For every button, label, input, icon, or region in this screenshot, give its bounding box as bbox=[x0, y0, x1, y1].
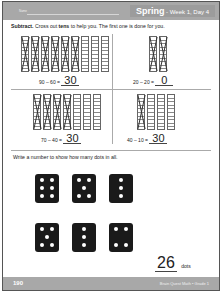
instruction-keyword: tens bbox=[59, 23, 70, 29]
name-input-line[interactable] bbox=[27, 14, 119, 15]
instruction-text-end: to help you. The first one is done for y… bbox=[69, 23, 164, 29]
ten-rod-crossed[interactable] bbox=[71, 36, 79, 72]
ten-rod-crossed[interactable] bbox=[43, 94, 51, 130]
domino-6 bbox=[35, 174, 59, 203]
ten-rod[interactable] bbox=[147, 94, 155, 130]
ten-rod[interactable] bbox=[93, 94, 101, 130]
total-answer-field[interactable]: 26 bbox=[155, 254, 177, 272]
ten-rod[interactable] bbox=[101, 36, 109, 72]
ten-rod[interactable] bbox=[167, 94, 175, 130]
ten-rod-crossed[interactable] bbox=[159, 36, 167, 72]
ten-rod[interactable] bbox=[91, 36, 99, 72]
ten-rod[interactable] bbox=[73, 94, 81, 130]
subtract-instruction: Subtract. Cross out tens to help you. Th… bbox=[11, 23, 165, 29]
dots-total: 26 dots bbox=[155, 254, 191, 272]
page-header: Name Spring - Week 1, Day 4 bbox=[3, 2, 219, 20]
domino-3 bbox=[109, 174, 133, 203]
equation-text: 40 – 10 = bbox=[127, 137, 148, 143]
problem-1: 90 – 60 = 30 bbox=[9, 32, 111, 89]
ten-rod[interactable] bbox=[81, 36, 89, 72]
ten-rods[interactable] bbox=[21, 36, 109, 72]
ten-rod-crossed[interactable] bbox=[61, 36, 69, 72]
ten-rod-crossed[interactable] bbox=[21, 36, 29, 72]
total-unit: dots bbox=[181, 263, 190, 269]
ten-rods[interactable] bbox=[149, 36, 167, 72]
book-title: Brain Quest Math • Grade 1 bbox=[160, 281, 209, 286]
equation: 90 – 60 = 30 bbox=[39, 75, 79, 86]
lesson-title: Spring - Week 1, Day 4 bbox=[130, 5, 215, 17]
page-footer: 190 Brain Quest Math • Grade 1 bbox=[3, 277, 219, 290]
problem-2: 20 – 20 = 0 bbox=[113, 32, 215, 89]
equation: 40 – 10 = 30 bbox=[127, 133, 167, 144]
domino-5 bbox=[35, 223, 59, 252]
page-number: 190 bbox=[13, 280, 23, 286]
equation-text: 20 – 20 = bbox=[133, 79, 154, 85]
answer-field[interactable]: 0 bbox=[155, 75, 173, 86]
equation-text: 90 – 60 = bbox=[39, 79, 60, 85]
domino-5 bbox=[72, 174, 96, 203]
subtraction-grid: 90 – 60 = 30 20 – 20 = 0 70 – 40 = 30 bbox=[9, 32, 213, 148]
equation: 20 – 20 = 0 bbox=[133, 75, 173, 86]
equation: 70 – 40 = 30 bbox=[41, 133, 81, 144]
ten-rods[interactable] bbox=[33, 94, 101, 130]
name-label: Name bbox=[19, 9, 27, 13]
answer-field[interactable]: 30 bbox=[63, 133, 81, 144]
ten-rod-crossed[interactable] bbox=[31, 36, 39, 72]
ten-rod-crossed[interactable] bbox=[137, 94, 145, 130]
ten-rod-crossed[interactable] bbox=[63, 94, 71, 130]
ten-rod-crossed[interactable] bbox=[41, 36, 49, 72]
ten-rods[interactable] bbox=[137, 94, 175, 130]
problem-3: 70 – 40 = 30 bbox=[9, 90, 111, 147]
ten-rod-crossed[interactable] bbox=[149, 36, 157, 72]
week-day-label: - Week 1, Day 4 bbox=[164, 9, 209, 15]
domino-4 bbox=[109, 223, 133, 252]
season-title: Spring bbox=[136, 6, 165, 16]
ten-rod[interactable] bbox=[83, 94, 91, 130]
ten-rod-crossed[interactable] bbox=[33, 94, 41, 130]
instruction-heading: Subtract. bbox=[11, 23, 33, 29]
problem-4: 40 – 10 = 30 bbox=[113, 90, 215, 147]
ten-rod-crossed[interactable] bbox=[51, 36, 59, 72]
answer-field[interactable]: 30 bbox=[61, 75, 79, 86]
dots-instruction: Write a number to show how many dots in … bbox=[13, 154, 118, 160]
answer-field[interactable]: 30 bbox=[149, 133, 167, 144]
instruction-text: Cross out bbox=[33, 23, 58, 29]
ten-rod[interactable] bbox=[157, 94, 165, 130]
section-divider bbox=[11, 150, 211, 151]
domino-3 bbox=[72, 223, 96, 252]
worksheet-page: Name Spring - Week 1, Day 4 Subtract. Cr… bbox=[2, 1, 220, 291]
ten-rod-crossed[interactable] bbox=[53, 94, 61, 130]
equation-text: 70 – 40 = bbox=[41, 137, 62, 143]
